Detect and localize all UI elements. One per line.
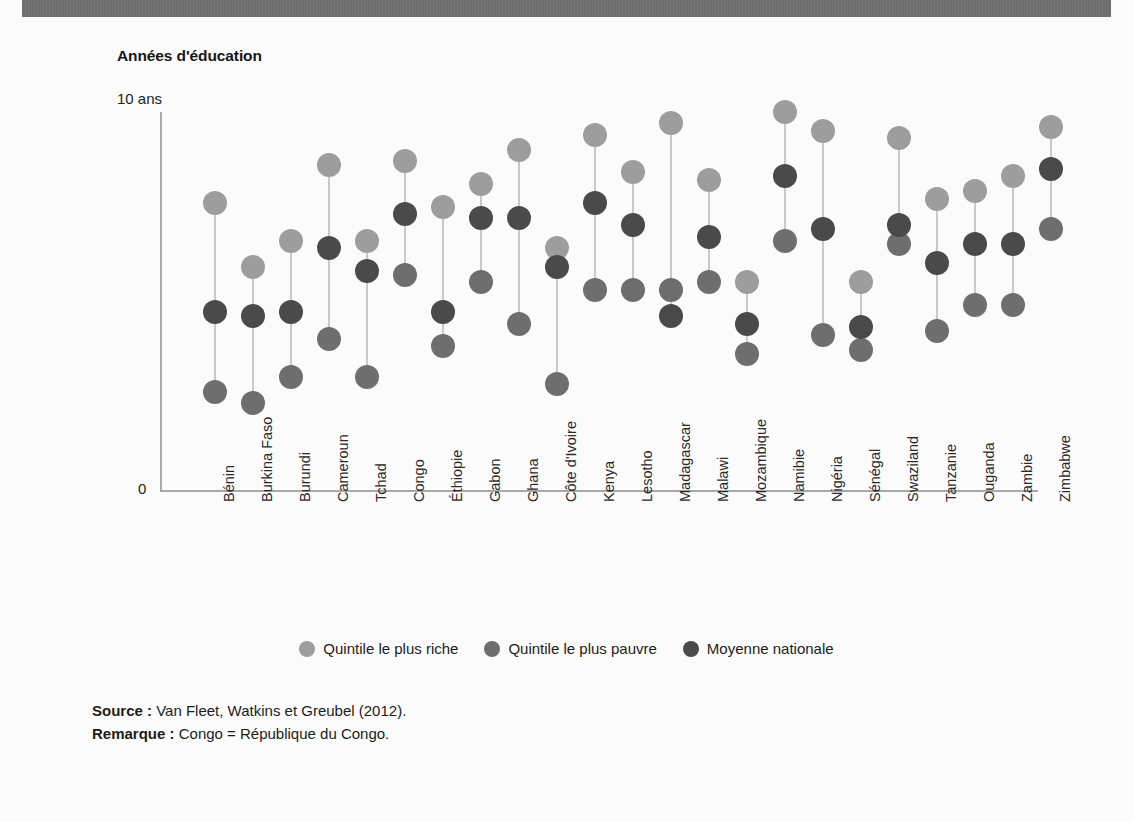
legend-swatch-national [683, 641, 699, 657]
data-point [279, 229, 303, 253]
data-point [469, 206, 493, 230]
legend-swatch-poorest [484, 641, 500, 657]
plot-area: 10 ans 0 BéninBurkina FasoBurundiCamerou… [160, 112, 1038, 490]
data-point [773, 164, 797, 188]
data-point [811, 323, 835, 347]
data-point [355, 365, 379, 389]
data-point [355, 259, 379, 283]
x-axis-tick-label: Burundi [297, 452, 313, 502]
x-axis-tick-label: Ouganda [981, 442, 997, 502]
data-point [1039, 115, 1063, 139]
data-point [393, 202, 417, 226]
data-point [469, 270, 493, 294]
data-point [355, 229, 379, 253]
connector-line [480, 184, 482, 282]
legend-item: Quintile le plus riche [299, 640, 458, 657]
x-axis-tick-label: Swaziland [905, 436, 921, 502]
data-point [393, 263, 417, 287]
data-point [773, 229, 797, 253]
data-point [203, 380, 227, 404]
data-point [621, 160, 645, 184]
y-axis-top-tick-label: 10 ans [117, 90, 162, 107]
data-point [697, 225, 721, 249]
data-point [659, 278, 683, 302]
x-axis-tick-label: Mozambique [753, 419, 769, 502]
data-point [887, 126, 911, 150]
data-point [241, 255, 265, 279]
data-point [583, 278, 607, 302]
data-point [279, 365, 303, 389]
x-axis-tick-label: Gabon [487, 458, 503, 502]
data-point [773, 100, 797, 124]
x-axis-tick-label: Zambie [1019, 454, 1035, 502]
x-axis-tick-label: Tchad [373, 463, 389, 502]
x-axis-tick-label: Congo [411, 459, 427, 502]
data-point [849, 338, 873, 362]
legend-label: Moyenne nationale [707, 640, 834, 657]
data-point [1039, 217, 1063, 241]
x-axis-tick-label: Namibie [791, 449, 807, 502]
source-label: Source : [92, 702, 152, 719]
x-axis-tick-label: Éthiopie [449, 450, 465, 502]
data-point [317, 327, 341, 351]
data-point [241, 304, 265, 328]
data-point [697, 270, 721, 294]
data-point [659, 111, 683, 135]
x-axis-tick-label: Burkina Faso [259, 417, 275, 502]
x-axis-tick-label: Malawi [715, 457, 731, 502]
legend-swatch-richest [299, 641, 315, 657]
data-point [1001, 293, 1025, 317]
header-bar-texture [22, 0, 1111, 17]
data-point [317, 236, 341, 260]
y-axis-zero-tick-label: 0 [138, 480, 146, 497]
x-axis-tick-label: Zimbabwe [1057, 435, 1073, 502]
data-point [963, 179, 987, 203]
data-point [1001, 232, 1025, 256]
connector-line [442, 207, 444, 347]
x-axis-tick-label: Nigéria [829, 456, 845, 502]
data-point [545, 255, 569, 279]
data-point [849, 270, 873, 294]
x-axis-tick-label: Madagascar [677, 422, 693, 502]
data-point [317, 153, 341, 177]
data-point [697, 168, 721, 192]
data-point [1001, 164, 1025, 188]
x-axis-tick-label: Lesotho [639, 450, 655, 502]
x-axis-tick-label: Bénin [221, 465, 237, 502]
data-point [735, 270, 759, 294]
data-point [393, 149, 417, 173]
data-point [621, 213, 645, 237]
data-point [735, 342, 759, 366]
data-point [963, 232, 987, 256]
data-point [811, 217, 835, 241]
x-axis-tick-label: Côte d'Ivoire [563, 421, 579, 502]
data-point [507, 312, 531, 336]
source-line: Source : Van Fleet, Watkins et Greubel (… [92, 700, 406, 723]
data-point [583, 123, 607, 147]
legend-item: Moyenne nationale [683, 640, 834, 657]
figure-panel: Années d'éducation 10 ans 0 BéninBurkina… [0, 0, 1133, 822]
x-axis-tick-label: Tanzanie [943, 444, 959, 502]
data-point [811, 119, 835, 143]
data-point [621, 278, 645, 302]
remark-label: Remarque : [92, 725, 175, 742]
data-point [431, 300, 455, 324]
x-axis-tick-label: Cameroun [335, 434, 351, 502]
data-point [203, 300, 227, 324]
remark-text: Congo = République du Congo. [179, 725, 390, 742]
legend-label: Quintile le plus pauvre [508, 640, 656, 657]
connector-line [214, 203, 216, 392]
connector-line [252, 267, 254, 403]
data-point [469, 172, 493, 196]
x-axis-tick-label: Sénégal [867, 449, 883, 502]
source-text: Van Fleet, Watkins et Greubel (2012). [156, 702, 406, 719]
data-point [545, 372, 569, 396]
data-point [241, 391, 265, 415]
data-point [431, 334, 455, 358]
data-point [849, 315, 873, 339]
data-point [925, 187, 949, 211]
legend-item: Quintile le plus pauvre [484, 640, 656, 657]
connector-line [518, 150, 520, 324]
page-title: Années d'éducation [117, 47, 262, 65]
data-point [925, 319, 949, 343]
